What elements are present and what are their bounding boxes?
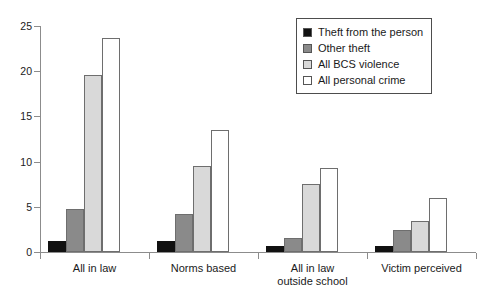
y-axis-tick-label: 10 (2, 157, 32, 167)
chart-legend: Theft from the person Other theft All BC… (296, 18, 432, 94)
bar (193, 166, 211, 252)
legend-label: Theft from the person (318, 26, 423, 38)
bar (175, 214, 193, 252)
y-axis-tick-label: 20 (2, 66, 32, 76)
legend-label: All personal crime (318, 74, 405, 86)
legend-swatch-theft-from-the-person (303, 28, 312, 37)
legend-label: All BCS violence (318, 58, 399, 70)
legend-swatch-all-bcs-violence (303, 60, 312, 69)
x-axis-tick (149, 253, 150, 259)
bar (393, 230, 411, 252)
x-axis-tick (40, 253, 41, 259)
y-axis-tick-label-wrap: 20 (0, 66, 32, 76)
legend-swatch-other-theft (303, 44, 312, 53)
bar (411, 221, 429, 252)
x-axis-tick (258, 253, 259, 259)
x-axis-tick (476, 253, 477, 259)
x-axis-category-label-line: All in law (258, 262, 367, 275)
legend-item: Other theft (303, 40, 423, 56)
bar (48, 241, 66, 252)
bar (211, 130, 229, 252)
bar (66, 209, 84, 252)
y-axis-tick-label-wrap: 0 (0, 247, 32, 257)
y-axis-tick-label-wrap: 25 (0, 21, 32, 31)
x-axis-category-label: All in lawoutside school (258, 262, 367, 288)
legend-label: Other theft (318, 42, 370, 54)
x-axis-category-label: Victim perceived (367, 262, 476, 275)
y-axis-tick-label: 0 (2, 247, 32, 257)
y-axis-tick-label-wrap: 5 (0, 202, 32, 212)
x-axis-category-label: All in law (40, 262, 149, 275)
x-axis-category-label-line: Norms based (149, 262, 258, 275)
bar-chart: 0510152025 All in lawNorms basedAll in l… (0, 0, 479, 298)
legend-item: All personal crime (303, 72, 423, 88)
x-axis-category-label-line: All in law (40, 262, 149, 275)
bar (375, 246, 393, 252)
legend-item: All BCS violence (303, 56, 423, 72)
y-axis-tick-label-wrap: 10 (0, 157, 32, 167)
y-axis-tick-label: 15 (2, 111, 32, 121)
legend-swatch-all-personal-crime (303, 76, 312, 85)
x-axis-tick (367, 253, 368, 259)
bar (157, 241, 175, 252)
bar (284, 238, 302, 252)
legend-item: Theft from the person (303, 24, 423, 40)
x-axis-category-label-line: Victim perceived (367, 262, 476, 275)
bar (429, 198, 447, 252)
x-axis-category-label-line: outside school (258, 275, 367, 288)
y-axis-tick-label: 5 (2, 202, 32, 212)
x-axis-category-label: Norms based (149, 262, 258, 275)
bar (102, 38, 120, 252)
bar (302, 184, 320, 252)
y-axis-tick-label: 25 (2, 21, 32, 31)
bar (320, 168, 338, 252)
y-axis-tick-label-wrap: 15 (0, 111, 32, 121)
bar (84, 75, 102, 252)
bar (266, 246, 284, 252)
